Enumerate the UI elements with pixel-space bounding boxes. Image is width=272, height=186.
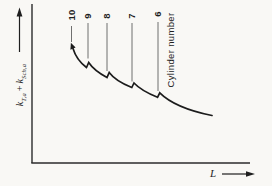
x-axis-label: L — [210, 167, 216, 179]
y-arrow-head-icon — [17, 8, 23, 17]
y-axis-subscript-1: T,a — [20, 93, 27, 102]
y-axis-plus-sign: + — [14, 86, 25, 92]
cylinder-label-8: 8 — [101, 13, 112, 18]
y-axis-label: kT,a+kSch,a — [9, 64, 27, 106]
y-axis-label-arrow — [17, 8, 23, 53]
cylinder-number-annotation: Cylinder number — [165, 13, 176, 88]
y-axis-symbol-1: k — [14, 102, 25, 106]
leader-lines — [72, 22, 159, 91]
y-axis-subscript-2: Sch,a — [20, 64, 27, 79]
figure-svg — [0, 0, 272, 186]
cylinder-label-6: 6 — [152, 11, 163, 16]
cylinder-label-7: 7 — [126, 13, 137, 18]
y-axis-symbol-2: k — [14, 79, 25, 83]
x-axis-label-arrow — [222, 171, 255, 177]
figure-canvas: kT,a+kSch,a Cylinder number L 109876 — [0, 0, 272, 186]
cost-curve — [73, 49, 212, 116]
x-arrow-head-icon — [246, 171, 255, 177]
y-axis-label-math: kT,a+kSch,a — [14, 64, 25, 106]
cylinder-label-10: 10 — [65, 10, 76, 21]
cylinder-label-9: 9 — [82, 13, 93, 18]
